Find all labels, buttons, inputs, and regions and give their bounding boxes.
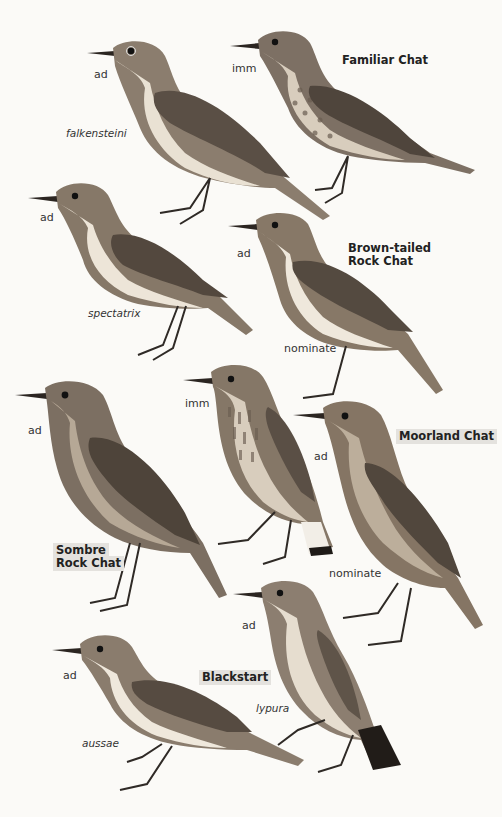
age-label-ad: ad (242, 620, 256, 632)
field-guide-plate: ad falkensteini imm Familiar Chat ad spe… (0, 0, 502, 817)
age-label-ad: ad (237, 248, 251, 260)
age-label-ad: ad (40, 212, 54, 224)
species-name-sombre-rock-chat-line2: Rock Chat (53, 556, 124, 571)
age-label-ad: ad (94, 69, 108, 81)
age-label-imm: imm (232, 63, 257, 75)
subspecies-label-aussae: aussae (82, 738, 119, 750)
subspecies-label-nominate: nominate (284, 343, 336, 355)
subspecies-label-lypura: lypura (256, 703, 289, 715)
species-name-familiar-chat: Familiar Chat (342, 54, 428, 67)
species-name-brown-tailed-rock-chat-line2: Rock Chat (348, 255, 413, 268)
species-name-brown-tailed-rock-chat-line1: Brown-tailed (348, 242, 431, 255)
age-label-ad: ad (314, 451, 328, 463)
age-label-ad: ad (28, 425, 42, 437)
species-name-moorland-chat: Moorland Chat (396, 429, 497, 444)
age-label-ad: ad (63, 670, 77, 682)
subspecies-label-nominate: nominate (329, 568, 381, 580)
subspecies-label-falkensteini: falkensteini (66, 128, 127, 140)
bird-brown-tailed-rock-chat-spectatrix-illustration (28, 180, 258, 370)
subspecies-label-spectatrix: spectatrix (88, 308, 141, 320)
species-name-blackstart: Blackstart (199, 670, 271, 685)
age-label-imm: imm (185, 398, 210, 410)
